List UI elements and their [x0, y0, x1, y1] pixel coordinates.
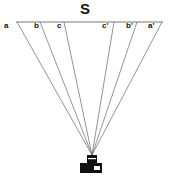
label-b-prime: b': [126, 22, 133, 30]
label-a: a: [4, 22, 8, 30]
ray-c-prime: [92, 22, 114, 155]
label-b: b: [34, 22, 39, 30]
camera-icon: [80, 155, 102, 173]
sight-lines: [17, 22, 162, 155]
label-c-prime: c': [102, 22, 108, 30]
ray-a: [17, 22, 92, 155]
subject-label: S: [80, 1, 90, 16]
ray-c: [64, 22, 92, 155]
perspective-diagram: S a b c c' b' a': [0, 0, 171, 180]
label-a-prime: a': [148, 22, 154, 30]
ray-a-prime: [92, 22, 162, 155]
diagram-lines: [0, 0, 171, 180]
label-c: c: [57, 22, 61, 30]
ray-b-prime: [92, 22, 137, 155]
ray-b: [40, 22, 92, 155]
